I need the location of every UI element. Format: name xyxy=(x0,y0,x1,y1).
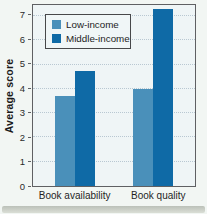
bar-middle-income-book-availability xyxy=(75,71,95,186)
y-tick-mark-2 xyxy=(28,137,31,138)
x-category-label-book-quality: Book quality xyxy=(131,190,185,201)
y-tick-mark-6 xyxy=(28,39,31,40)
y-tick-label-4: 4 xyxy=(20,84,25,94)
y-tick-mark-5 xyxy=(28,63,31,64)
y-tick-label-3: 3 xyxy=(20,108,25,118)
y-tick-mark-7 xyxy=(28,14,31,15)
y-axis-ticks: 01234567 xyxy=(0,4,31,187)
legend: Low-incomeMiddle-income xyxy=(45,14,131,49)
bar-low-income-book-availability xyxy=(55,96,75,186)
y-tick-mark-4 xyxy=(28,88,31,89)
bar-chart-figure: Average score 01234567 Low-incomeMiddle-… xyxy=(0,0,207,214)
bar-low-income-book-quality xyxy=(133,89,153,186)
y-tick-label-0: 0 xyxy=(20,182,25,192)
x-axis-labels: Book availabilityBook quality xyxy=(32,190,196,204)
scan-shadow-strip xyxy=(2,206,205,213)
legend-item-low-income: Low-income xyxy=(52,19,125,30)
y-tick-mark-1 xyxy=(28,161,31,162)
legend-label: Low-income xyxy=(66,19,119,30)
legend-swatch-icon xyxy=(52,34,61,43)
plot-area: Low-incomeMiddle-income xyxy=(32,4,196,187)
y-tick-label-5: 5 xyxy=(20,59,25,69)
x-category-label-book-availability: Book availability xyxy=(39,190,111,201)
legend-item-middle-income: Middle-income xyxy=(52,33,125,44)
y-tick-mark-3 xyxy=(28,112,31,113)
y-tick-mark-0 xyxy=(28,186,31,187)
y-tick-label-2: 2 xyxy=(20,133,25,143)
y-tick-label-7: 7 xyxy=(20,10,25,20)
y-tick-label-1: 1 xyxy=(20,157,25,167)
legend-label: Middle-income xyxy=(66,33,130,44)
bar-middle-income-book-quality xyxy=(153,9,173,186)
y-tick-label-6: 6 xyxy=(20,35,25,45)
legend-swatch-icon xyxy=(52,20,61,29)
